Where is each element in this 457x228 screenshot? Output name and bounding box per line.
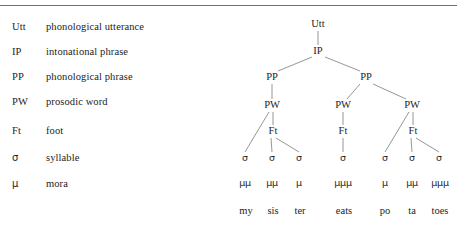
tree-edge-ip-pp2	[325, 57, 360, 71]
tree-node-m6: μμ	[406, 177, 418, 189]
tree-node-w3: ter	[294, 205, 305, 217]
tree-node-s7: σ	[436, 152, 442, 164]
tree-edge-lines	[0, 0, 457, 228]
tree-node-ip: IP	[313, 45, 322, 57]
tree-node-ft1: Ft	[269, 125, 278, 137]
tree-edge-ft3-s6	[411, 138, 412, 152]
tree-node-w4: eats	[336, 205, 352, 217]
tree-node-pp2: PP	[360, 71, 372, 83]
tree-node-pw1: PW	[264, 99, 280, 111]
tree-edge-pw1-s1	[245, 112, 269, 152]
tree-node-utt: Utt	[311, 18, 324, 30]
tree-node-s1: σ	[242, 152, 248, 164]
tree-edge-pp2-pw3	[373, 84, 406, 99]
tree-node-pp1: PP	[266, 71, 278, 83]
tree-node-s2: σ	[269, 152, 275, 164]
tree-node-w1: my	[239, 205, 252, 217]
tree-node-ft2: Ft	[339, 125, 348, 137]
tree-edge-ft3-s7	[416, 138, 439, 152]
tree-node-ft3: Ft	[409, 125, 418, 137]
tree-node-w6: ta	[408, 205, 416, 217]
tree-node-w2: sis	[267, 205, 278, 217]
tree-node-s5: σ	[382, 152, 388, 164]
tree-node-s4: σ	[340, 152, 346, 164]
tree-node-m1: μμ	[239, 177, 251, 189]
tree-node-s3: σ	[296, 152, 302, 164]
tree-node-s6: σ	[409, 152, 415, 164]
tree-edge-pp2-pw2	[347, 84, 360, 99]
tree-node-pw3: PW	[404, 99, 420, 111]
tree-edge-ft1-s3	[276, 138, 299, 152]
tree-node-w5: po	[380, 205, 391, 217]
tree-node-m3: μ	[296, 177, 302, 189]
tree-edge-ft1-s2	[271, 138, 272, 152]
prosodic-hierarchy-figure: Uttphonological utteranceIPintonational …	[0, 0, 457, 228]
tree-edge-ip-pp1	[278, 57, 312, 71]
tree-node-m7: μμμ	[431, 177, 449, 189]
prosodic-tree: UttIPPPPPPWPWPWFtFtFtσσσσσσσμμμμμμμμμμμμ…	[0, 0, 457, 228]
tree-node-m5: μ	[382, 177, 388, 189]
tree-node-m2: μμ	[266, 177, 278, 189]
tree-edge-pw3-s5	[385, 112, 409, 152]
tree-node-pw2: PW	[335, 99, 351, 111]
tree-node-m4: μμμ	[334, 177, 352, 189]
tree-node-w7: toes	[432, 205, 449, 217]
